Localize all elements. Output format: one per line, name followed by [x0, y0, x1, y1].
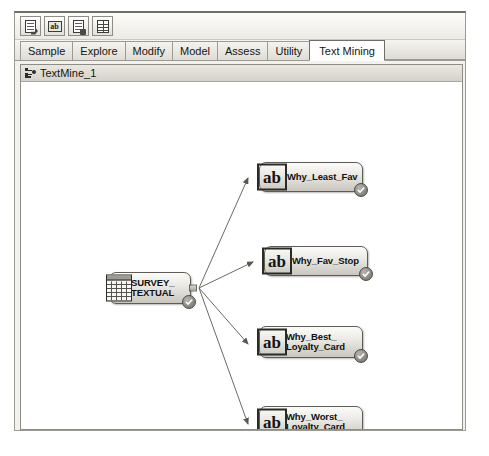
- grid-page-icon: [97, 20, 109, 33]
- toolbar: ab: [15, 13, 465, 40]
- tab-utility[interactable]: Utility: [267, 41, 309, 60]
- diagram-canvas[interactable]: SURVEY_ TEXTUAL ab Why_Least_Fav: [21, 82, 462, 429]
- connector-source-to-node2: [199, 262, 253, 288]
- node-why-fav-stop[interactable]: ab Why_Fav_Stop: [264, 246, 368, 276]
- node-label: Why_Fav_Stop: [292, 256, 359, 266]
- node-label: Why_Least_Fav: [287, 172, 358, 182]
- ab-icon: ab: [257, 409, 287, 430]
- diagram-icon: [25, 68, 36, 79]
- node-why-worst-loyalty-card[interactable]: ab Why_Worst_ Loyalty_Card: [259, 406, 363, 429]
- status-badge: [354, 183, 368, 197]
- status-badge: [182, 295, 196, 309]
- node-survey-textual[interactable]: SURVEY_ TEXTUAL: [109, 272, 191, 304]
- ab-icon: ab: [262, 248, 292, 275]
- create-data-source-button[interactable]: [20, 16, 41, 36]
- connector-source-to-node3: [199, 288, 248, 344]
- connector-layer: [21, 82, 462, 429]
- page-plus-icon: [73, 20, 84, 33]
- text-miner-button[interactable]: ab: [44, 16, 65, 36]
- tab-strip-filler: [385, 41, 465, 60]
- status-badge: [359, 267, 373, 281]
- ab-icon: ab: [257, 329, 287, 356]
- data-table-icon: [106, 275, 132, 302]
- ab-icon: ab: [48, 21, 62, 32]
- node-output-connector[interactable]: [189, 285, 197, 292]
- tab-modify[interactable]: Modify: [125, 41, 172, 60]
- ab-icon: ab: [257, 164, 287, 191]
- tab-sample[interactable]: Sample: [20, 41, 72, 60]
- page-arrow-icon: [25, 20, 36, 33]
- text-topic-button[interactable]: [92, 16, 113, 36]
- tab-strip: Sample Explore Modify Model Assess Utili…: [15, 40, 465, 61]
- text-parsing-button[interactable]: [68, 16, 89, 36]
- tab-text-mining[interactable]: Text Mining: [309, 40, 385, 61]
- diagram-window: TextMine_1: [20, 64, 463, 430]
- connector-source-to-node1: [199, 178, 248, 288]
- tab-assess[interactable]: Assess: [217, 41, 267, 60]
- node-label: Why_Worst_ Loyalty_Card: [286, 412, 345, 429]
- status-badge: [354, 349, 368, 363]
- node-label: Why_Best_ Loyalty_Card: [286, 332, 345, 352]
- enterprise-miner-window: ab Sample Explore Modify Model Assess Ut…: [14, 11, 466, 431]
- connector-source-to-node4: [199, 288, 248, 424]
- node-why-best-loyalty-card[interactable]: ab Why_Best_ Loyalty_Card: [259, 326, 363, 358]
- node-why-least-fav[interactable]: ab Why_Least_Fav: [259, 162, 363, 192]
- node-label: SURVEY_ TEXTUAL: [131, 278, 174, 298]
- diagram-title-bar: TextMine_1: [21, 65, 462, 82]
- tab-model[interactable]: Model: [172, 41, 217, 60]
- diagram-title-label: TextMine_1: [40, 67, 96, 79]
- tab-explore[interactable]: Explore: [72, 41, 124, 60]
